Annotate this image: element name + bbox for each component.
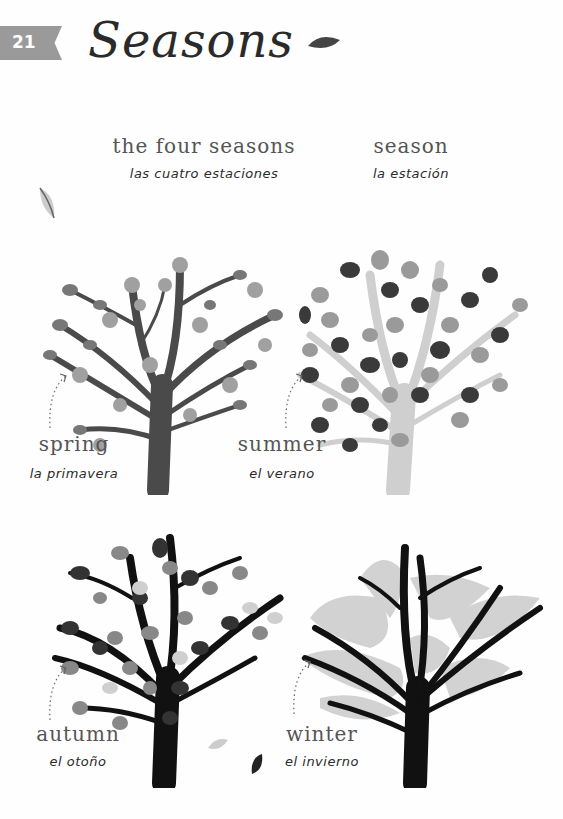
season-spanish-autumn: el otoño: [50, 754, 107, 769]
vocab-spanish-four-seasons: las cuatro estaciones: [130, 166, 278, 181]
page-title: Seasons: [88, 12, 294, 68]
season-english-spring: spring: [39, 432, 110, 456]
dotted-arrow-icon: [282, 370, 306, 430]
page-number: 21: [12, 32, 36, 52]
season-english-autumn: autumn: [36, 722, 120, 746]
season-spanish-summer: el verano: [249, 466, 314, 481]
season-spanish-winter: el invierno: [285, 754, 359, 769]
vocab-spanish-season: la estación: [373, 166, 449, 181]
leaf-icon: [36, 186, 60, 222]
spring-tree-illustration: [40, 245, 290, 495]
season-english-summer: summer: [238, 432, 326, 456]
vocab-english-season: season: [373, 134, 448, 158]
season-english-winter: winter: [286, 722, 358, 746]
autumn-tree-illustration: [40, 528, 290, 788]
falling-leaf-icon: [248, 752, 264, 776]
vocab-english-four-seasons: the four seasons: [113, 134, 296, 158]
winter-tree-illustration: [300, 538, 545, 788]
page-number-tab: 21: [0, 26, 62, 60]
leaf-icon: [306, 34, 346, 54]
dotted-arrow-icon: [290, 656, 314, 716]
dotted-arrow-icon: [46, 662, 70, 722]
falling-leaf-icon: [206, 736, 230, 752]
season-spanish-spring: la primavera: [30, 466, 119, 481]
summer-tree-illustration: [290, 245, 540, 495]
dotted-arrow-icon: [46, 370, 70, 430]
